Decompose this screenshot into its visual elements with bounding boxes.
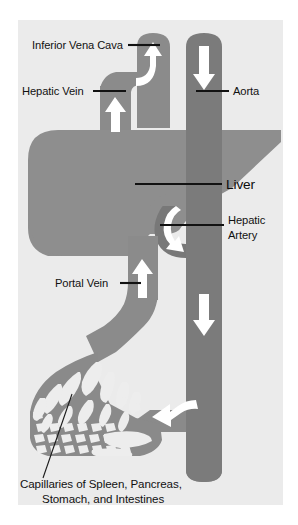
label-hepatic-artery-line2: Artery xyxy=(228,229,258,241)
label-hepatic-vein: Hepatic Vein xyxy=(22,85,84,97)
label-inferior-vena-cava: Inferior Vena Cava xyxy=(32,39,124,51)
caption-line-2: Stomach, and Intestines xyxy=(42,492,164,505)
figure-root: Inferior Vena Cava Hepatic Vein Aorta Li… xyxy=(0,0,298,525)
caption-line-1: Capillaries of Spleen, Pancreas, xyxy=(20,477,182,490)
label-hepatic-artery-line1: Hepatic xyxy=(228,214,266,226)
label-portal-vein: Portal Vein xyxy=(55,277,108,289)
hepatic-portal-circulation-diagram: Inferior Vena Cava Hepatic Vein Aorta Li… xyxy=(0,0,298,525)
label-liver: Liver xyxy=(226,177,256,192)
label-aorta: Aorta xyxy=(233,85,260,97)
